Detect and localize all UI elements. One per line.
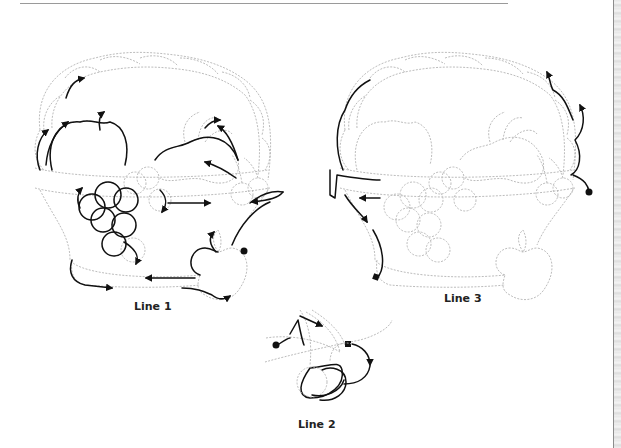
figure-line-3 xyxy=(330,52,593,299)
caption-line-1: Line 1 xyxy=(134,300,172,313)
figure-line-1 xyxy=(35,52,283,299)
figure-line-2 xyxy=(265,310,392,400)
start-dot xyxy=(273,342,280,349)
caption-line-3: Line 3 xyxy=(444,292,482,305)
end-square xyxy=(345,341,351,347)
caption-line-2: Line 2 xyxy=(298,418,336,431)
start-dot xyxy=(241,248,248,255)
end-square xyxy=(372,273,380,281)
